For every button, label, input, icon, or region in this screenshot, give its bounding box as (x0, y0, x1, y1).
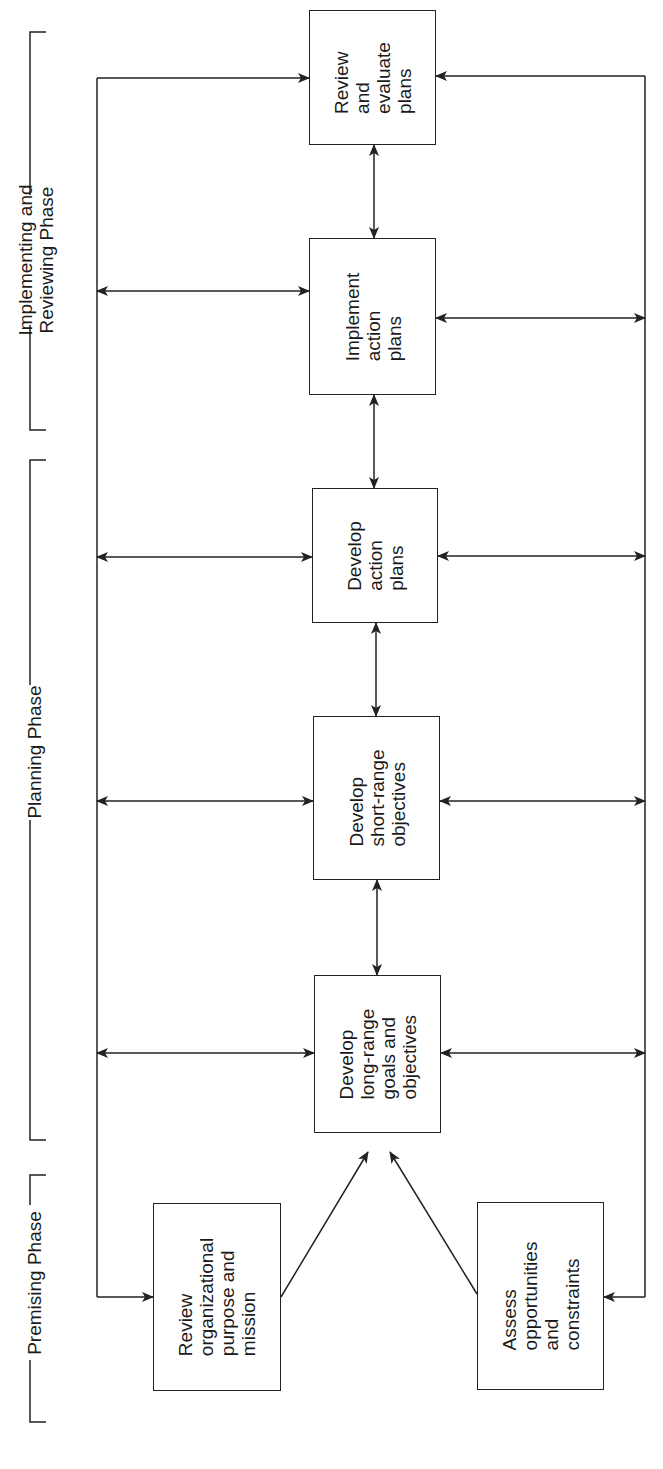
box-label: Assess opportunities and constraints (499, 1242, 583, 1351)
box-review-organizational-purpose: Review organizational purpose and missio… (153, 1203, 281, 1391)
box-assess-opportunities: Assess opportunities and constraints (477, 1202, 604, 1390)
box-label: Review and evaluate plans (331, 42, 415, 114)
box-label: Implement action plans (341, 272, 404, 361)
phase-label-planning: Planning Phase (24, 685, 45, 818)
box-label: Develop long-range goals and objectives (336, 1009, 420, 1100)
box-label: Review organizational purpose and missio… (175, 1238, 259, 1356)
box-develop-action-plans: Develop action plans (312, 488, 438, 623)
box-develop-long-range: Develop long-range goals and objectives (314, 975, 441, 1133)
box-review-evaluate-plans: Review and evaluate plans (309, 10, 436, 145)
phase-label-implementing: Implementing and Reviewing Phase (15, 184, 57, 335)
box-develop-short-range: Develop short-range objectives (313, 716, 440, 880)
box-label: Develop short-range objectives (345, 749, 408, 846)
box-implement-action-plans: Implement action plans (309, 238, 436, 395)
box-label: Develop action plans (344, 521, 407, 591)
phase-label-premising: Premising Phase (24, 1211, 45, 1355)
